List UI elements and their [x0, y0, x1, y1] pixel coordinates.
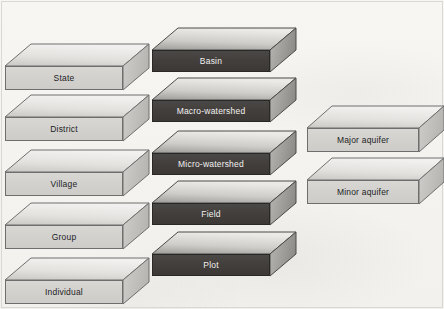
slab-front-face: Group — [5, 225, 123, 249]
slab-front-face: Basin — [152, 50, 270, 72]
slab-group: Group — [5, 203, 149, 249]
slab-front-face: Individual — [5, 280, 123, 304]
slab-front-face: Micro-watershed — [152, 153, 270, 175]
slab-front-face: District — [5, 117, 123, 141]
slab-district: District — [5, 95, 149, 141]
slab-basin: Basin — [152, 28, 296, 72]
slab-label: Major aquifer — [337, 136, 389, 145]
slab-micro-watershed: Micro-watershed — [152, 131, 296, 175]
slab-individual: Individual — [5, 258, 149, 304]
slab-macro-watershed: Macro-watershed — [152, 78, 296, 122]
slab-front-face: Field — [152, 203, 270, 225]
slab-label: State — [54, 74, 75, 83]
slab-label: Field — [201, 210, 220, 219]
slab-front-face: Major aquifer — [307, 128, 419, 152]
slab-state: State — [5, 44, 149, 90]
slab-label: Micro-watershed — [178, 160, 244, 169]
slab-front-face: Plot — [152, 254, 270, 276]
slab-plot: Plot — [152, 232, 296, 276]
slab-label: District — [50, 125, 78, 134]
slab-minor-aquifer: Minor aquifer — [307, 158, 444, 204]
slab-major-aquifer: Major aquifer — [307, 106, 444, 152]
slab-front-face: Village — [5, 172, 123, 196]
slab-field: Field — [152, 181, 296, 225]
diagram-canvas: StateDistrictVillageGroupIndividualBasin… — [0, 0, 444, 309]
slab-label: Individual — [45, 288, 83, 297]
slab-front-face: State — [5, 66, 123, 90]
slab-label: Basin — [200, 57, 222, 66]
slab-label: Minor aquifer — [337, 188, 389, 197]
slab-label: Macro-watershed — [177, 107, 246, 116]
slab-village: Village — [5, 150, 149, 196]
slab-label: Plot — [203, 261, 218, 270]
slab-front-face: Macro-watershed — [152, 100, 270, 122]
slab-front-face: Minor aquifer — [307, 180, 419, 204]
slab-label: Group — [52, 233, 77, 242]
slab-label: Village — [51, 180, 78, 189]
